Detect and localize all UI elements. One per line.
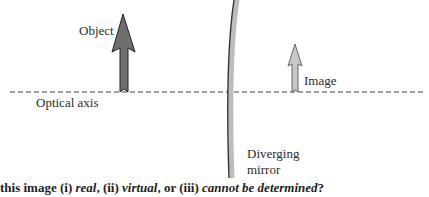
optics-diagram: Object Image Optical axis Diverging mirr… [0,0,429,197]
question-prefix: this image (i) [0,180,75,195]
option-cannot-determine: cannot be determined [202,180,318,195]
question-sep1: , (ii) [96,180,122,195]
object-label: Object [79,24,114,38]
option-virtual: virtual [122,180,157,195]
optical-axis-label: Optical axis [36,96,98,110]
object-arrow-icon [112,14,135,92]
mirror-label-line2: mirror [247,162,299,178]
option-real: real [75,180,96,195]
mirror-label-line1: Diverging [247,146,299,162]
question-suffix: ? [318,180,325,195]
question-text: this image (i) real, (ii) virtual, or (i… [0,180,324,196]
mirror-label: Diverging mirror [247,146,299,178]
question-sep2: , or (iii) [157,180,202,195]
image-label: Image [304,74,336,88]
image-arrow-icon [288,44,302,92]
